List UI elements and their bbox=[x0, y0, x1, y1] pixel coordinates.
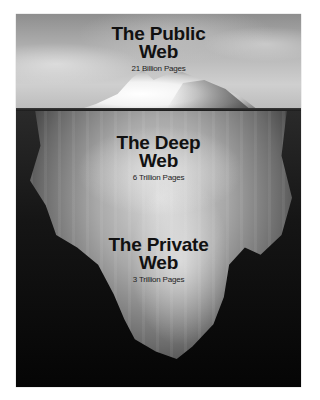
waterline bbox=[16, 108, 301, 111]
deep-web-label: The Deep Web 6 Trillion Pages bbox=[16, 134, 301, 183]
deep-web-page-count: 6 Trillion Pages bbox=[16, 173, 301, 183]
public-web-page-count: 21 Billion Pages bbox=[16, 64, 301, 74]
private-web-title-line2: Web bbox=[16, 254, 301, 272]
deep-web-title-line2: Web bbox=[16, 152, 301, 170]
private-web-page-count: 3 Trillion Pages bbox=[16, 275, 301, 285]
public-web-label: The Public Web 21 Billion Pages bbox=[16, 25, 301, 74]
public-web-title-line2: Web bbox=[16, 43, 301, 61]
iceberg-poster: The Public Web 21 Billion Pages The Deep… bbox=[16, 14, 301, 387]
private-web-label: The Private Web 3 Trillion Pages bbox=[16, 236, 301, 285]
